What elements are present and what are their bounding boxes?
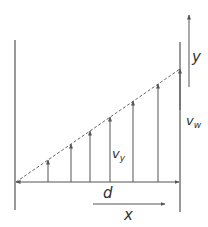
velocity-profile-dashed bbox=[16, 69, 180, 182]
couette-flow-diagram: y vw vy d x bbox=[0, 0, 208, 227]
distance-label: d bbox=[103, 184, 113, 202]
local-velocity-label: vy bbox=[112, 146, 126, 163]
velocity-arrows bbox=[48, 69, 180, 182]
wall-velocity-label: vw bbox=[186, 113, 202, 130]
y-label: y bbox=[191, 48, 202, 66]
x-label: x bbox=[123, 206, 133, 224]
